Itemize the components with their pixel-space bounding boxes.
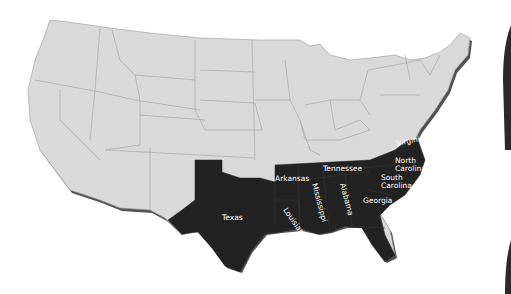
- us-map: Texas Arkansas Louisiana Mississippi Ten…: [0, 0, 511, 294]
- label-georgia: Georgia: [363, 196, 392, 205]
- label-texas: Texas: [221, 213, 243, 222]
- label-north-carolina-2: Carolina: [395, 164, 426, 173]
- label-arkansas: Arkansas: [275, 174, 309, 183]
- label-south-carolina-2: Carolina: [381, 181, 412, 190]
- right-edge-arc: [503, 25, 511, 150]
- right-edge-arc-lower: [505, 240, 511, 294]
- label-tennessee: Tennessee: [322, 164, 362, 173]
